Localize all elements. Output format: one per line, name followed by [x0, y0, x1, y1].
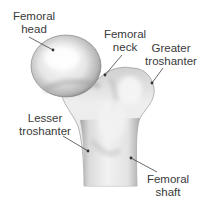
- label-femoral-shaft-line1: Femoral: [144, 173, 192, 186]
- label-femoral-shaft: Femoral shaft: [144, 173, 192, 198]
- marker-dot-femoral-head: [52, 49, 55, 52]
- label-femoral-head-line2: head: [10, 23, 58, 36]
- label-greater-troshanter-line2: troshanter: [140, 55, 202, 68]
- marker-dot-lesser-troshanter: [87, 150, 90, 153]
- label-greater-troshanter: Greater troshanter: [140, 42, 202, 67]
- label-femoral-shaft-line2: shaft: [144, 186, 192, 199]
- marker-dot-greater-troshanter: [151, 82, 154, 85]
- label-lesser-troshanter: Lesser troshanter: [15, 112, 75, 137]
- marker-dot-femoral-shaft: [130, 157, 133, 160]
- label-femoral-neck-line1: Femoral: [101, 28, 149, 41]
- label-femoral-head: Femoral head: [10, 10, 58, 35]
- label-lesser-troshanter-line2: troshanter: [15, 125, 75, 138]
- label-lesser-troshanter-line1: Lesser: [15, 112, 75, 125]
- label-greater-troshanter-line1: Greater: [140, 42, 202, 55]
- label-femoral-head-line1: Femoral: [10, 10, 58, 23]
- leader-line-greater-troshanter: [152, 68, 163, 83]
- marker-dot-femoral-neck: [104, 74, 107, 77]
